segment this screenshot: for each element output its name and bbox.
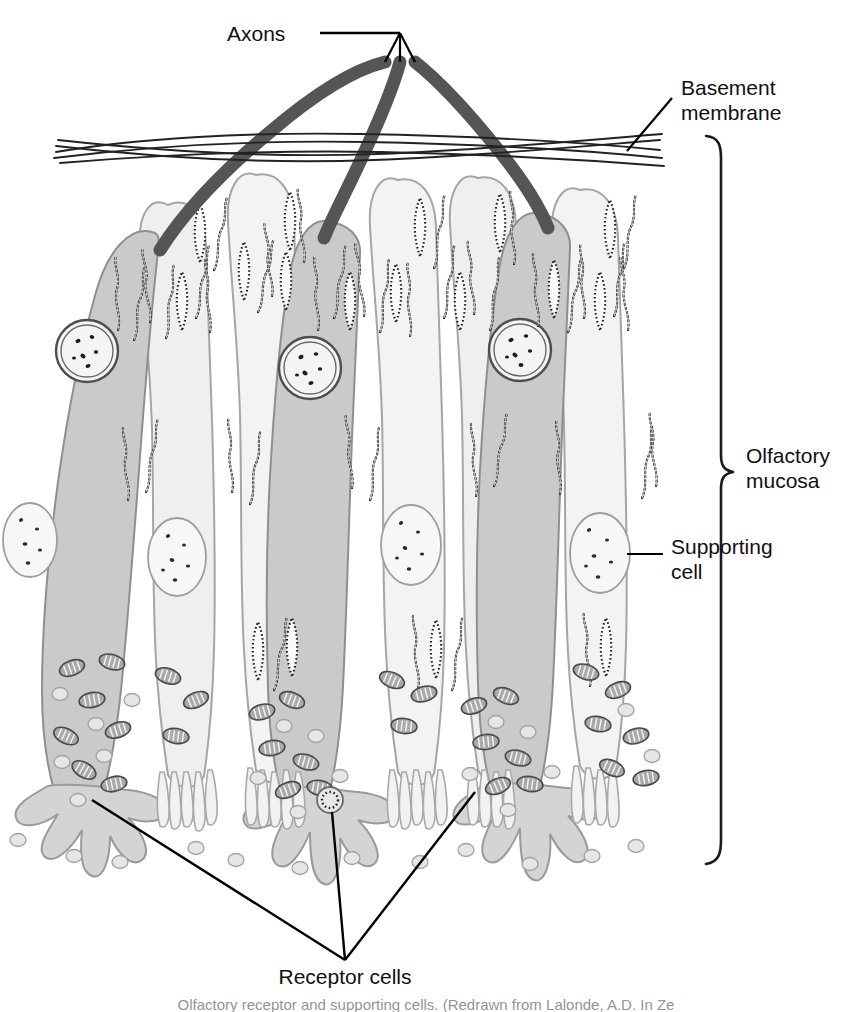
figure-caption: Olfactory receptor and supporting cells.… — [178, 996, 675, 1012]
basal-process-group-1 — [15, 785, 166, 877]
receptor-nucleus-2 — [279, 337, 341, 399]
label-supporting-cell-line1: Supporting — [671, 535, 773, 558]
basal-microvilli-tuft-3 — [387, 770, 447, 829]
basal-body — [317, 787, 343, 813]
supporting-nucleus-3 — [381, 505, 441, 585]
figure-root: Axons Basement membrane Olfactory mucosa… — [0, 0, 852, 1012]
label-supporting-cell-line2: cell — [671, 560, 703, 583]
olfactory-mucosa-diagram: Axons Basement membrane Olfactory mucosa… — [0, 0, 852, 1012]
label-receptor-cells: Receptor cells — [278, 965, 411, 988]
receptor-nucleus-1 — [56, 320, 118, 382]
supporting-nucleus-4 — [570, 513, 630, 593]
basal-microvilli-tuft-1 — [157, 770, 217, 831]
supporting-nucleus-2 — [3, 503, 57, 577]
label-olfactory-mucosa-line1: Olfactory — [746, 444, 831, 467]
supporting-nucleus-1 — [148, 518, 206, 596]
receptor-nucleus-3 — [489, 319, 551, 381]
olfactory-mucosa-brace — [706, 136, 733, 864]
basement-membrane-leader — [627, 98, 672, 151]
label-basement-membrane-line1: Basement — [681, 76, 776, 99]
label-basement-membrane-line2: membrane — [681, 101, 781, 124]
label-olfactory-mucosa-line2: mucosa — [746, 469, 820, 492]
receptor-cell-1 — [42, 231, 159, 802]
label-axons: Axons — [227, 22, 285, 45]
